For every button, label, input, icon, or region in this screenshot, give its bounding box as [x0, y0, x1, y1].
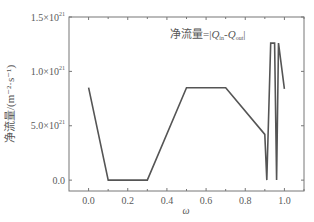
y-axis-ticks: 0.05.0×10211.0×10211.5×1021 [31, 11, 304, 186]
x-tick-label: 0.6 [200, 195, 213, 206]
y-tick-label: 1.5×1021 [31, 11, 65, 23]
series-line [89, 43, 285, 180]
x-axis-label: ω [182, 205, 189, 216]
x-tick-label: 1.0 [278, 195, 291, 206]
x-tick-label: 0.8 [239, 195, 252, 206]
chart-annotation: 净流量=|Qin-Qout| [170, 27, 246, 41]
x-tick-label: 0.2 [122, 195, 135, 206]
x-tick-label: 0.0 [82, 195, 95, 206]
y-axis-label: 净流量/(m⁻²·s⁻¹) [3, 65, 17, 143]
y-tick-label: 5.0×1021 [31, 119, 65, 131]
line-chart: 0.00.20.40.60.81.0 0.05.0×10211.0×10211.… [0, 0, 314, 222]
y-tick-label: 1.0×1021 [31, 65, 65, 77]
y-tick-label: 0.0 [53, 175, 66, 186]
x-tick-label: 0.4 [161, 195, 174, 206]
data-series [89, 43, 285, 180]
